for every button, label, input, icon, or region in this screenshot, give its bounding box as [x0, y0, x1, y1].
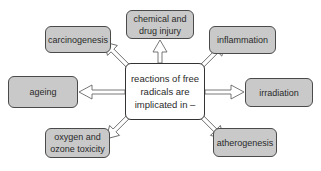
node-inflammation: inflammation: [209, 26, 276, 54]
center-node: reactions of free radicals are implicate…: [125, 63, 205, 120]
node-label-line-2: drug injury: [133, 25, 186, 37]
node-oxygen-ozone-toxicity: oxygen and ozone toxicity: [45, 128, 110, 158]
node-label-line-2: ozone toxicity: [50, 143, 105, 155]
node-irradiation: irradiation: [245, 78, 313, 107]
node-label: irradiation: [259, 87, 299, 99]
node-label: ageing: [29, 86, 56, 98]
arrow-to-chemical-drug-injury: [153, 40, 167, 63]
center-line-2: radicals are: [131, 85, 199, 98]
node-label: carcinogenesis: [48, 34, 108, 46]
node-chemical-drug-injury: chemical and drug injury: [126, 10, 194, 39]
node-label-line-1: chemical and: [133, 13, 186, 25]
node-label: atherogenesis: [217, 137, 274, 149]
center-line-3: implicated in –: [131, 98, 199, 111]
node-ageing: ageing: [8, 76, 78, 108]
node-carcinogenesis: carcinogenesis: [45, 26, 111, 53]
center-line-1: reactions of free: [131, 72, 199, 85]
node-label-line-1: oxygen and: [50, 131, 105, 143]
node-atherogenesis: atherogenesis: [213, 128, 277, 157]
node-label: inflammation: [217, 34, 268, 46]
arrow-to-ageing: [79, 85, 125, 99]
arrow-to-irradiation: [205, 85, 244, 99]
